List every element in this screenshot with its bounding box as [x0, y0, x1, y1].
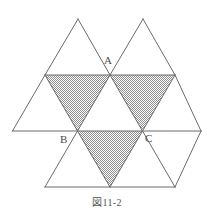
diagonal-down-5 — [175, 75, 201, 131]
vertex-label-a: A — [104, 55, 112, 66]
diagonal-up-4 — [175, 131, 201, 187]
shaded-triangle-lower-middle — [78, 131, 143, 187]
vertex-label-c: C — [145, 133, 152, 144]
figure-container: A B C 図11-2 — [0, 0, 214, 216]
diagonal-up-1 — [13, 75, 46, 131]
diagonal-up-6 — [110, 19, 143, 75]
diagonal-down-1 — [78, 19, 110, 75]
shaded-triangle-upper-left — [45, 75, 110, 131]
figure-caption: 図11-2 — [0, 197, 214, 209]
shaded-triangle-upper-right — [110, 75, 175, 131]
diagonal-down-2 — [143, 19, 175, 75]
triangular-lattice-diagram — [0, 0, 214, 216]
vertex-label-b: B — [60, 134, 67, 145]
diagonal-up-5 — [45, 19, 78, 75]
